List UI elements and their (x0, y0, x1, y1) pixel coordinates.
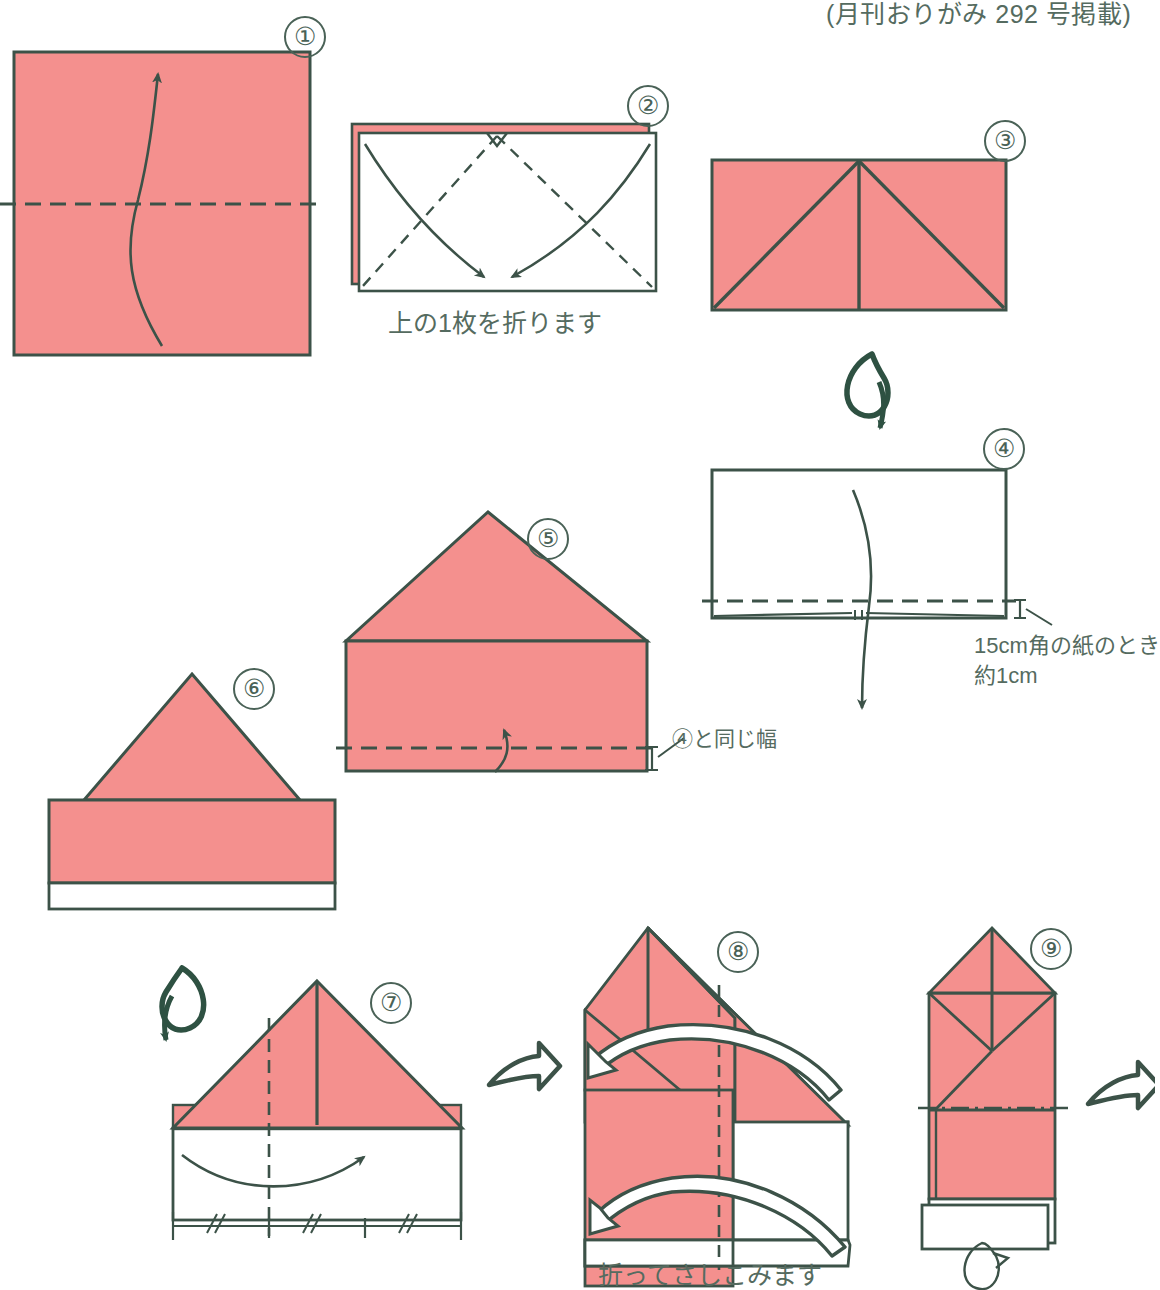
step-3-figure (712, 160, 1006, 310)
step-number-7: ⑦ (370, 982, 412, 1024)
step-2-caption: 上の1枚を折ります (388, 303, 602, 339)
step-5-measure-note: ④と同じ幅 (672, 722, 777, 752)
step-number-2: ② (627, 85, 669, 127)
turn-over-loop-arrow-mirrored-icon (162, 968, 204, 1040)
next-step-block-arrow-icon-2 (1088, 1062, 1155, 1108)
step-8-figure (585, 928, 850, 1286)
step-number-4: ④ (983, 428, 1025, 470)
step-4-measure-line-2: 約1cm (974, 657, 1038, 689)
step-number-3: ③ (984, 120, 1026, 162)
step-number-8: ⑧ (717, 931, 759, 973)
step-number-6: ⑥ (233, 668, 275, 710)
publication-note: (月刊おりがみ 292 号掲載) (826, 0, 1131, 30)
turn-over-loop-arrow-icon (847, 354, 888, 428)
step-2-figure (352, 124, 656, 291)
step-number-9: ⑨ (1030, 928, 1072, 970)
step-1-figure (0, 52, 322, 355)
step-7-figure (173, 981, 462, 1240)
step-number-5: ⑤ (527, 518, 569, 560)
step-4-measure-line-1: 15cm角の紙のとき (974, 627, 1160, 659)
step-number-1: ① (284, 16, 326, 58)
step-8-caption: 折ってさしこみます (598, 1255, 822, 1290)
step-9-figure (918, 928, 1068, 1289)
next-step-block-arrow-icon-1 (489, 1043, 560, 1089)
step-5-figure (336, 512, 684, 772)
step-6-figure (49, 674, 335, 909)
